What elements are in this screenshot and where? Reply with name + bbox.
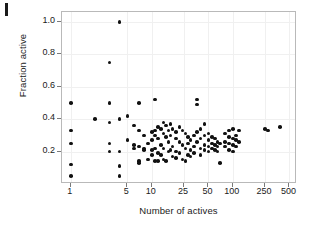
y-tick-mark xyxy=(57,86,61,87)
x-tick-mark xyxy=(183,183,184,187)
y-tick-mark xyxy=(57,151,61,152)
y-tick-label: 0.2 xyxy=(25,145,55,155)
x-tick-mark xyxy=(70,183,71,187)
x-tick-mark xyxy=(232,183,233,187)
y-tick-label: 0.6 xyxy=(25,80,55,90)
figure-scatter-plot: Fraction active Number of actives 0.20.4… xyxy=(0,0,315,226)
x-tick-label: 10 xyxy=(134,186,168,196)
x-tick-label: 1 xyxy=(53,186,87,196)
y-tick-label: 1.0 xyxy=(25,15,55,25)
y-tick-label: 0.8 xyxy=(25,47,55,57)
y-tick-mark xyxy=(57,118,61,119)
x-tick-mark xyxy=(126,183,127,187)
y-tick-mark xyxy=(57,53,61,54)
x-tick-mark xyxy=(264,183,265,187)
x-tick-label: 500 xyxy=(271,186,305,196)
x-tick-label: 100 xyxy=(215,186,249,196)
x-tick-mark xyxy=(288,183,289,187)
axis-tick-layer: 0.20.40.60.81.015102550100250500 xyxy=(0,0,315,226)
x-tick-mark xyxy=(151,183,152,187)
x-tick-mark xyxy=(207,183,208,187)
y-tick-mark xyxy=(57,21,61,22)
y-tick-label: 0.4 xyxy=(25,112,55,122)
